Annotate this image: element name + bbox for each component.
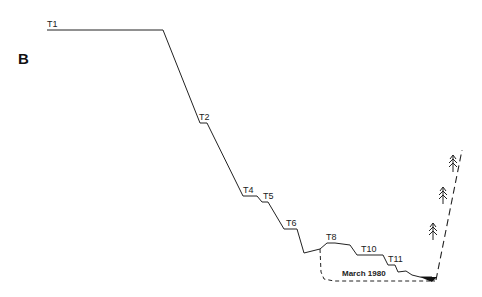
terrace-label-t4: T4 [243,185,254,195]
tree-icon [449,155,457,172]
march-1980-label: March 1980 [342,269,386,278]
terrace-label-t8: T8 [326,232,337,242]
terrace-profile-diagram: B T1 T2 T4 T5 T6 T8 T10 T11 March 1980 [0,0,482,297]
valley-wall-dashed [436,150,462,280]
terrace-label-t6: T6 [286,218,297,228]
terrace-label-t10: T10 [361,244,377,254]
tree-icon [429,223,437,240]
tree-icon [439,187,447,204]
terrace-label-t11: T11 [388,254,403,264]
terrace-label-t5: T5 [263,191,274,201]
terrace-label-t2: T2 [199,112,210,122]
terrace-label-t1: T1 [47,19,58,29]
panel-label: B [18,50,29,67]
terrace-profile-line [47,30,432,277]
